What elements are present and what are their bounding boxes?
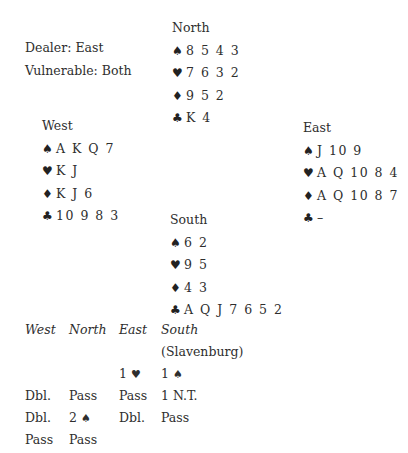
north-diamonds: ♦9 5 2 [172, 88, 240, 111]
north-spades-cards: 8 5 4 3 [186, 43, 240, 58]
north-clubs: ♣K 4 [172, 110, 240, 133]
auction-header-north: North [69, 322, 107, 338]
east-spades: ♠J 10 9 [303, 143, 399, 166]
west-clubs-cards: 10 9 8 3 [56, 208, 120, 223]
east-hand: East ♠J 10 9 ♥A Q 10 8 4 ♦A Q 10 8 7 ♣– [303, 120, 399, 233]
vulnerability-label: Vulnerable: Both [25, 63, 132, 79]
west-hearts: ♥K J [42, 163, 120, 186]
west-spades-cards: A K Q 7 [56, 141, 115, 156]
diamond-icon: ♦ [172, 88, 186, 104]
club-icon: ♣ [170, 302, 184, 318]
heart-icon: ♥ [42, 163, 56, 179]
east-clubs-cards: – [317, 210, 325, 225]
east-name: East [303, 120, 399, 143]
bid-west: Dbl. [25, 388, 51, 404]
west-name: West [42, 118, 120, 141]
west-hand: West ♠A K Q 7 ♥K J ♦K J 6 ♣10 9 8 3 [42, 118, 120, 231]
east-diamonds: ♦A Q 10 8 7 [303, 188, 399, 211]
bid-north: Pass [69, 388, 97, 404]
auction-header-south: South [161, 322, 198, 338]
bid-south: 1 ♠ [161, 366, 183, 383]
spade-icon: ♠ [303, 143, 317, 159]
dealer-label: Dealer: East [25, 40, 103, 56]
north-name: North [172, 20, 240, 43]
east-hearts: ♥A Q 10 8 4 [303, 165, 399, 188]
spade-icon: ♠ [81, 412, 91, 425]
auction-header-west: West [25, 322, 56, 338]
south-clubs-cards: A Q J 7 6 5 2 [184, 302, 283, 317]
bid-level: 1 [119, 366, 127, 381]
south-hearts: ♥9 5 [170, 257, 283, 280]
club-icon: ♣ [172, 110, 186, 126]
east-hearts-cards: A Q 10 8 4 [317, 165, 399, 180]
south-name: South [170, 212, 283, 235]
bid-east: Pass [119, 388, 147, 404]
north-hand: North ♠8 5 4 3 ♥7 6 3 2 ♦9 5 2 ♣K 4 [172, 20, 240, 133]
south-spades-cards: 6 2 [184, 235, 208, 250]
diamond-icon: ♦ [303, 188, 317, 204]
north-hearts-cards: 7 6 3 2 [186, 65, 240, 80]
bid-west: Dbl. [25, 410, 51, 426]
bid-level: 1 [161, 366, 169, 381]
bid-north: Pass [69, 432, 97, 448]
west-spades: ♠A K Q 7 [42, 141, 120, 164]
south-hand: South ♠6 2 ♥9 5 ♦4 3 ♣A Q J 7 6 5 2 [170, 212, 283, 325]
east-clubs: ♣– [303, 210, 399, 233]
spade-icon: ♠ [170, 235, 184, 251]
heart-icon: ♥ [170, 257, 184, 273]
south-hearts-cards: 9 5 [184, 257, 208, 272]
diamond-icon: ♦ [170, 280, 184, 296]
diamond-icon: ♦ [42, 186, 56, 202]
south-diamonds-cards: 4 3 [184, 280, 208, 295]
bid-east: 1 ♥ [119, 366, 141, 383]
bid-west: Pass [25, 432, 53, 448]
south-diamonds: ♦4 3 [170, 280, 283, 303]
spade-icon: ♠ [172, 43, 186, 59]
club-icon: ♣ [303, 210, 317, 226]
east-spades-cards: J 10 9 [317, 143, 363, 158]
heart-icon: ♥ [131, 368, 141, 381]
west-clubs: ♣10 9 8 3 [42, 208, 120, 231]
bid-level: 2 [69, 410, 77, 425]
north-diamonds-cards: 9 5 2 [186, 88, 225, 103]
west-diamonds: ♦K J 6 [42, 186, 120, 209]
east-diamonds-cards: A Q 10 8 7 [317, 188, 399, 203]
south-spades: ♠6 2 [170, 235, 283, 258]
bid-north: 2 ♠ [69, 410, 91, 427]
bid-south: 1 N.T. [161, 388, 198, 404]
north-hearts: ♥7 6 3 2 [172, 65, 240, 88]
heart-icon: ♥ [172, 65, 186, 81]
auction-header-east: East [119, 322, 147, 338]
spade-icon: ♠ [173, 368, 183, 381]
bid-south: Pass [161, 410, 189, 426]
heart-icon: ♥ [303, 165, 317, 181]
south-player-name: (Slavenburg) [161, 344, 243, 360]
west-hearts-cards: K J [56, 163, 79, 178]
bid-east: Dbl. [119, 410, 145, 426]
spade-icon: ♠ [42, 141, 56, 157]
north-spades: ♠8 5 4 3 [172, 43, 240, 66]
west-diamonds-cards: K J 6 [56, 186, 94, 201]
north-clubs-cards: K 4 [186, 110, 212, 125]
club-icon: ♣ [42, 208, 56, 224]
